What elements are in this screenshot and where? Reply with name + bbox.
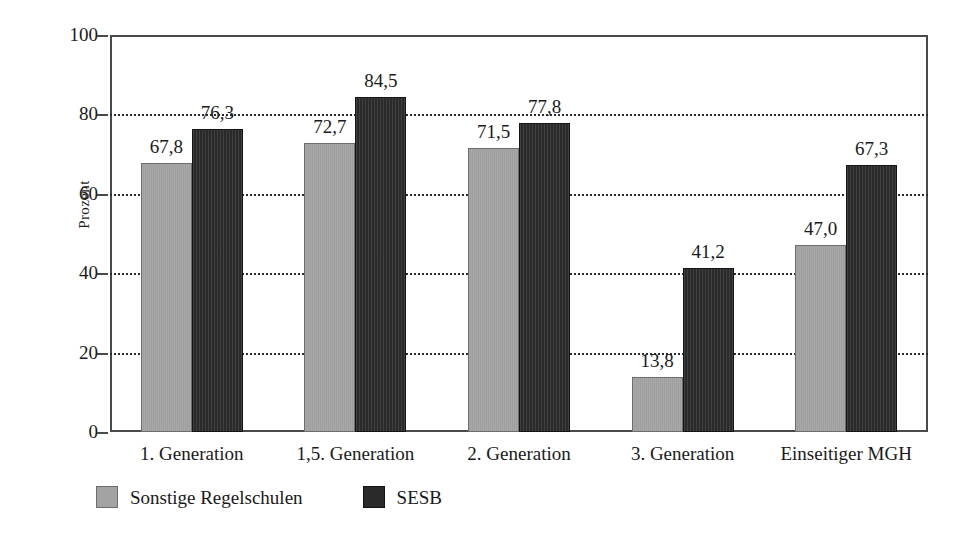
y-axis-tick: [97, 35, 108, 37]
bar-sonstige-regelschulen: [304, 143, 355, 432]
legend-item[interactable]: Sonstige Regelschulen: [96, 486, 303, 508]
bar-value-label: 47,0: [804, 219, 837, 238]
y-axis-tick: [97, 273, 108, 275]
legend-label: SESB: [397, 488, 442, 507]
bar-sesb: [192, 129, 243, 432]
bar-sonstige-regelschulen: [632, 377, 683, 432]
legend-item[interactable]: SESB: [363, 486, 442, 508]
y-axis-tick-label: 60: [40, 184, 98, 203]
bar-value-label: 13,8: [640, 351, 673, 370]
bar-value-label: 41,2: [691, 242, 724, 261]
y-axis-tick: [97, 114, 108, 116]
bar-value-label: 72,7: [313, 117, 346, 136]
bar-value-label: 76,3: [201, 103, 234, 122]
bar-sonstige-regelschulen: [468, 148, 519, 432]
y-axis-tick: [97, 353, 108, 355]
bar-sesb: [519, 123, 570, 432]
legend-label: Sonstige Regelschulen: [130, 488, 303, 507]
bar-sesb: [846, 165, 897, 432]
bar-value-label: 71,5: [477, 122, 510, 141]
y-axis-title: Prozent: [76, 145, 93, 265]
bar-value-label: 84,5: [364, 71, 397, 90]
bar-value-label: 67,8: [150, 137, 183, 156]
bar-sesb: [355, 97, 406, 432]
bar-chart: Prozent 020406080100 1. Generation1,5. G…: [0, 0, 961, 536]
x-axis-tick-label: 1,5. Generation: [297, 444, 415, 463]
x-axis-tick-label: Einseitiger MGH: [780, 444, 911, 463]
legend-swatch-icon: [363, 486, 385, 508]
y-axis-tick-label: 0: [40, 422, 98, 441]
legend-swatch-icon: [96, 486, 118, 508]
bar-value-label: 77,8: [528, 97, 561, 116]
y-axis-tick: [97, 194, 108, 196]
y-axis-tick: [97, 432, 108, 434]
x-axis-tick-label: 1. Generation: [140, 444, 243, 463]
chart-legend: Sonstige RegelschulenSESB: [96, 486, 442, 508]
y-axis-tick-label: 20: [40, 343, 98, 362]
bar-value-label: 67,3: [855, 139, 888, 158]
bar-sonstige-regelschulen: [795, 245, 846, 432]
x-axis-tick-label: 2. Generation: [467, 444, 570, 463]
bar-sesb: [683, 268, 734, 432]
y-axis-tick-label: 100: [40, 25, 98, 44]
bar-sonstige-regelschulen: [141, 163, 192, 432]
x-axis-tick-label: 3. Generation: [631, 444, 734, 463]
y-axis-tick-label: 40: [40, 263, 98, 282]
y-axis-tick-label: 80: [40, 104, 98, 123]
